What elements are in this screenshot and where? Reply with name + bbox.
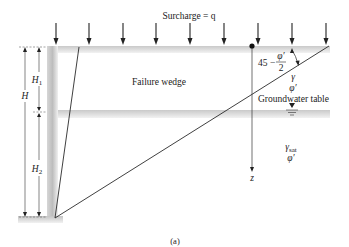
svg-text:φ′: φ′ [287,153,295,163]
retaining-wall-diagram: Surcharge = q Failure wedge Groundwater … [0,0,349,247]
ground-surface-band [47,46,330,53]
figure-caption: (a) [170,236,180,246]
svg-text:φ′: φ′ [289,83,297,93]
total-height-label: H [21,91,30,101]
upper-height-label: H1 [31,75,43,87]
svg-text:45 −: 45 − [258,58,275,68]
failure-wedge-label: Failure wedge [132,77,186,87]
upper-soil-properties: γ φ′ [289,72,297,93]
groundwater-band [57,110,330,118]
retaining-wall [47,46,58,218]
depth-axis [249,43,254,172]
dimension-extension-lines [19,47,46,217]
depth-axis-label: z [249,173,254,183]
lower-soil-properties: γsat φ′ [285,142,297,163]
surcharge-label: Surcharge = q [162,11,215,21]
groundwater-label: Groundwater table [258,94,329,104]
wall-back-line [55,47,79,218]
lower-height-label: H2 [31,164,43,176]
reference-point [249,43,254,48]
svg-text:2: 2 [279,63,284,73]
svg-text:γ: γ [291,72,295,82]
svg-text:φ′: φ′ [277,51,285,61]
failure-plane-line [55,46,329,218]
failure-angle-label: 45 − φ′ 2 [258,51,286,73]
dimension-total-height [23,47,27,217]
surcharge-arrows [54,23,329,45]
